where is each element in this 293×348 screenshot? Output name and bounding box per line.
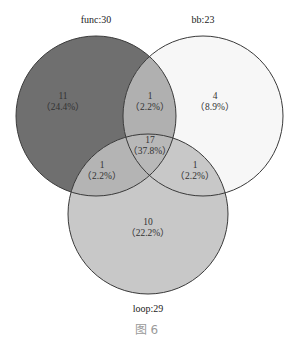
figure-caption: 图 6 xyxy=(0,320,293,337)
region-percent: （37.8%） xyxy=(128,145,173,156)
region-count: 17 xyxy=(145,135,155,145)
region-count: 1 xyxy=(100,160,105,170)
region-percent: （8.9%） xyxy=(195,101,235,112)
region-count: 4 xyxy=(213,91,218,101)
region-count: 1 xyxy=(148,91,153,101)
set-label-bb: bb:23 xyxy=(192,14,215,25)
region-percent: （22.2%） xyxy=(126,227,171,238)
set-label-loop: loop:29 xyxy=(133,303,164,314)
region-count: 10 xyxy=(143,217,153,227)
set-label-func: func:30 xyxy=(81,14,112,25)
region-count: 1 xyxy=(193,160,198,170)
region-percent: （24.4%） xyxy=(41,101,86,112)
region-count: 11 xyxy=(58,91,67,101)
region-percent: （2.2%） xyxy=(175,170,215,181)
region-percent: （2.2%） xyxy=(130,101,170,112)
venn-diagram: func:30 bb:23 loop:29 11 （24.4%） 1 （2.2%… xyxy=(0,0,293,348)
region-percent: （2.2%） xyxy=(82,170,122,181)
